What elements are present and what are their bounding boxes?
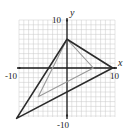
y-axis-label: y (69, 7, 75, 18)
x-axis-label: x (117, 57, 123, 68)
axis-lines (17, 18, 117, 119)
x-max-tick-label: 10 (110, 71, 120, 81)
graph-svg: y x 10 -10 -10 10 (0, 0, 130, 136)
x-min-tick-label: -10 (5, 71, 17, 81)
coordinate-plane-figure: y x 10 -10 -10 10 (0, 0, 130, 136)
y-min-tick-label: -10 (57, 120, 69, 130)
y-max-tick-label: 10 (52, 15, 62, 25)
